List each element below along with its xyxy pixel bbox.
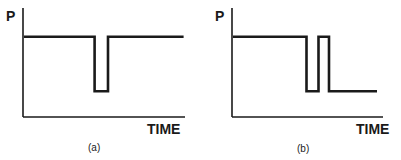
- panel-b-pressure-trace: [233, 37, 377, 92]
- panel-b-x-label: TIME: [356, 121, 389, 137]
- panel-b-y-label: P: [215, 8, 224, 24]
- panel-a-y-label: P: [6, 8, 15, 24]
- panel-a-x-label: TIME: [147, 121, 180, 137]
- panel-a-caption: (a): [88, 142, 100, 153]
- panel-b: P TIME (b): [215, 8, 389, 154]
- panel-b-caption: (b): [297, 143, 309, 154]
- panel-a-pressure-trace: [24, 37, 184, 92]
- panel-a: P TIME (a): [6, 8, 185, 153]
- figure: P TIME (a) P TIME (b): [0, 0, 401, 160]
